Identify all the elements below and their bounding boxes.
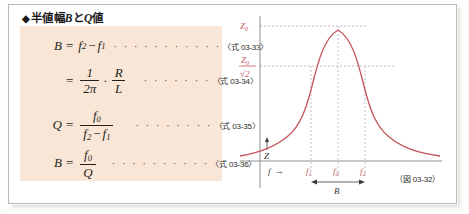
- eq35-equals: =: [66, 117, 73, 133]
- eq36-equals: =: [66, 155, 73, 171]
- figure-caption: （図 03-32）: [395, 173, 440, 184]
- eq36-numerator: f0: [81, 148, 95, 164]
- y-axis-label: Z: [264, 151, 270, 161]
- eq34-den-1: 2π: [80, 80, 99, 95]
- x-axis-label: f: [268, 166, 272, 176]
- eq34-den-2: L: [112, 80, 125, 95]
- resonance-chart-svg: Z f → Z0 Z0 √2 f1 f0 f2 B: [234, 10, 446, 196]
- eq33-f2-sub: 2: [82, 41, 86, 51]
- eq35-numerator: f0: [90, 109, 104, 125]
- y-axis-arrow-head: [265, 137, 269, 142]
- eq35-denominator: f2−f1: [80, 125, 113, 142]
- title-text-2: と: [73, 12, 84, 24]
- label-z0-over-sqrt2-denominator: √2: [240, 69, 250, 79]
- bandwidth-label: B: [334, 186, 340, 196]
- title-text-1: 半値幅: [31, 12, 65, 24]
- eq34-equals: =: [66, 73, 73, 89]
- page-root: ◆半値幅BとQ値 B = f2 − f1 · · · · · · · · · ·…: [0, 0, 469, 214]
- title-text-3: 値: [92, 12, 103, 24]
- eq36-leader-dots: · · · · · · · · · ·: [112, 158, 210, 169]
- bandwidth-arrow-right: [359, 180, 365, 185]
- label-z0: Z0: [240, 21, 249, 32]
- page-title: ◆半値幅BとQ値: [22, 9, 104, 25]
- eq34-fraction-2: R L: [112, 66, 126, 95]
- eq34-num-2: R: [112, 66, 126, 80]
- eq34-multiply-dot: ·: [103, 73, 107, 89]
- bandwidth-arrow-left: [311, 180, 317, 185]
- diamond-bullet-icon: ◆: [22, 13, 30, 24]
- label-z0-over-sqrt2-numerator: Z0: [241, 55, 250, 66]
- equation-03-36: B = f0 Q · · · · · · · · · · 〈式 03-36〉: [44, 148, 256, 179]
- impedance-curve: [240, 30, 440, 156]
- eq36-fraction: f0 Q: [80, 148, 95, 179]
- equation-03-34: = 1 2π · R L · · · · · · · 〈式 03-34〉: [44, 66, 257, 95]
- eq33-leader-dots: · · · · · · · · · · ·: [113, 41, 221, 52]
- eq33-f1-sub: 1: [101, 41, 105, 51]
- equations-panel: B = f2 − f1 · · · · · · · · · · · 〈式 03-…: [20, 26, 222, 181]
- x-axis-arrow: →: [275, 166, 284, 176]
- eq33-equals: =: [66, 38, 73, 54]
- equation-03-35: Q = f0 f2−f1 · · · · · · · · 〈式 03-35〉: [44, 109, 259, 141]
- title-italic-b: B: [65, 12, 73, 24]
- eq35-lhs: Q: [44, 117, 62, 133]
- eq35-fraction: f0 f2−f1: [80, 109, 113, 141]
- eq34-leader-dots: · · · · · · ·: [144, 75, 211, 86]
- eq33-lhs: B: [44, 38, 62, 54]
- eq34-fraction-1: 1 2π: [80, 66, 99, 95]
- eq34-num-1: 1: [84, 66, 97, 80]
- eq36-lhs: B: [44, 155, 62, 171]
- eq36-denominator: Q: [80, 164, 95, 179]
- eq35-leader-dots: · · · · · · · ·: [135, 120, 212, 131]
- eq33-minus: −: [88, 38, 95, 54]
- tick-label-f0: f0: [333, 166, 340, 177]
- resonance-curve-figure: Z f → Z0 Z0 √2 f1 f0 f2 B （図 03-32）: [234, 10, 446, 196]
